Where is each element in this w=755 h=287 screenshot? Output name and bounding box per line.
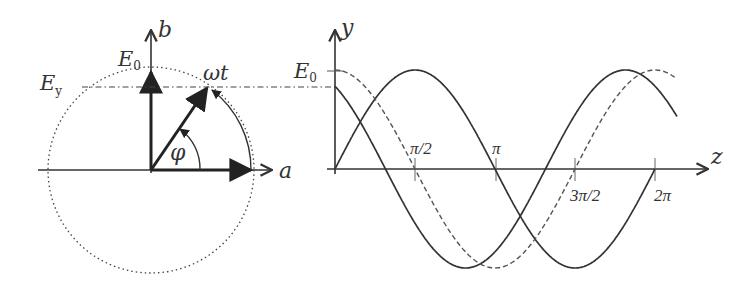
- wave-e0-label: E0: [293, 59, 317, 85]
- z-axis-label: z: [710, 144, 723, 169]
- phi-label: φ: [170, 140, 186, 165]
- omega-t-label: ωt: [203, 61, 229, 85]
- ey-label: Ey: [39, 71, 62, 98]
- b-axis-label: b: [158, 17, 172, 42]
- phasor-diagram: b a E0 Ey ωt φ: [38, 17, 335, 273]
- phasor-e0-label: E0: [117, 47, 141, 73]
- wave-phasor-figure: b a E0 Ey ωt φ y z E0 π/2 π: [0, 0, 755, 287]
- y-axis-label: y: [340, 15, 354, 40]
- wave-plot: y z E0 π/2 π 3π/2 2π: [293, 15, 723, 268]
- tick-label-pi-over-2: π/2: [410, 139, 432, 158]
- a-axis-label: a: [279, 158, 292, 183]
- tick-label-3pi-over-2: 3π/2: [569, 186, 601, 205]
- omega-t-arc: [212, 90, 251, 170]
- tick-label-pi: π: [492, 139, 501, 158]
- tick-label-2pi: 2π: [654, 186, 672, 205]
